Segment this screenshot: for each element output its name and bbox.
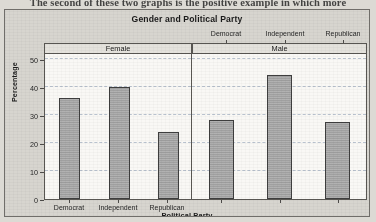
x-tick-label-independent: Independent: [91, 204, 145, 211]
y-tick-label: 50: [30, 55, 38, 64]
y-tick-mark: [40, 172, 44, 173]
y-tick-mark: [40, 144, 44, 145]
y-tick-label: 0: [34, 196, 38, 205]
chart-frame: Gender and Political Party DemocratIndep…: [4, 9, 370, 217]
y-axis-title: Percentage: [11, 62, 18, 102]
x-tick-mark: [118, 200, 119, 203]
y-tick-label: 10: [30, 167, 38, 176]
panel-strip-male: Male: [192, 43, 367, 54]
y-tick-label: 20: [30, 139, 38, 148]
male-panel-bottom-ticks: [192, 200, 367, 206]
bar-male-independent: [267, 75, 292, 199]
bar-female-independent: [109, 87, 130, 199]
gridline: [45, 58, 191, 59]
y-tick-mark: [40, 88, 44, 89]
x-tick-mark: [280, 200, 281, 203]
top-tick-label-independent: Independent: [258, 30, 312, 37]
x-tick-mark: [221, 200, 222, 203]
x-tick-mark: [338, 200, 339, 203]
y-tick-label: 30: [30, 111, 38, 120]
x-tick-label-democrat: Democrat: [42, 204, 96, 211]
gridline: [192, 58, 366, 59]
y-tick-mark: [40, 116, 44, 117]
y-axis: 01020304050: [25, 54, 44, 200]
top-tick-label-democrat: Democrat: [199, 30, 253, 37]
panel-strip-female: Female: [44, 43, 192, 54]
y-tick-label: 40: [30, 83, 38, 92]
bar-male-democrat: [209, 120, 234, 199]
male-panel-top-axis: DemocratIndependentRepublican: [197, 30, 370, 41]
bar-female-republican: [158, 132, 179, 199]
x-tick-mark: [69, 200, 70, 203]
bar-female-democrat: [59, 98, 80, 199]
x-axis-title: Political Party: [5, 211, 369, 217]
plot-panel-male: [192, 54, 367, 200]
x-tick-label-republican: Republican: [140, 204, 194, 211]
chart-title: Gender and Political Party: [5, 14, 369, 24]
bar-male-republican: [325, 122, 350, 199]
page-caption-text: The second of these two graphs is the po…: [0, 0, 376, 9]
x-tick-mark: [167, 200, 168, 203]
y-tick-mark: [40, 60, 44, 61]
top-tick-label-republican: Republican: [316, 30, 370, 37]
plot-panel-female: [44, 54, 192, 200]
